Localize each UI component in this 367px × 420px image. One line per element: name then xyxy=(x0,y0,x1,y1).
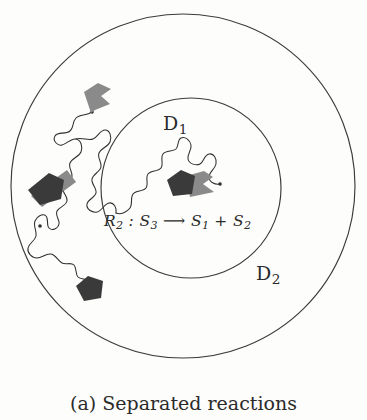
molecule-dark-pentagon-lower-left xyxy=(76,276,103,301)
molecule-dark-pentagon-inner xyxy=(167,170,195,196)
reaction-reactant: S xyxy=(139,212,150,230)
reaction-product-2: S xyxy=(233,212,244,230)
walk-endpoint-dot-lower xyxy=(38,224,42,228)
walk-endpoint-dot-inner xyxy=(218,182,222,186)
inner-domain-subscript: 1 xyxy=(179,121,188,137)
reaction-equation-label: R2 : S3 ⟶ S1 + S2 xyxy=(104,212,251,232)
reaction-product-2-subscript: 2 xyxy=(244,219,251,232)
figure-caption: (a) Separated reactions xyxy=(0,392,367,414)
reaction-separator: : xyxy=(123,212,139,230)
figure-separated-reactions: D1 D2 R2 : S3 ⟶ S1 + S2 (a) Separated re… xyxy=(0,0,367,420)
outer-domain-subscript: 2 xyxy=(272,271,281,287)
random-walk-path-midsection xyxy=(76,130,116,213)
outer-domain-symbol: D xyxy=(256,262,272,284)
reaction-id: R xyxy=(104,212,116,230)
reaction-plus-sign: + xyxy=(214,212,227,230)
reaction-product-1-subscript: 1 xyxy=(202,219,209,232)
molecule-dark-pentagon-left xyxy=(28,173,64,205)
outer-domain-label: D2 xyxy=(256,262,280,287)
reaction-arrow-icon: ⟶ xyxy=(163,212,186,230)
reaction-product-1: S xyxy=(191,212,202,230)
inner-domain-label: D1 xyxy=(163,112,187,137)
inner-domain-symbol: D xyxy=(163,112,179,134)
reaction-domain-diagram xyxy=(0,0,367,420)
molecule-gray-kite-upper-left xyxy=(84,83,111,113)
reaction-reactant-subscript: 3 xyxy=(151,219,158,232)
